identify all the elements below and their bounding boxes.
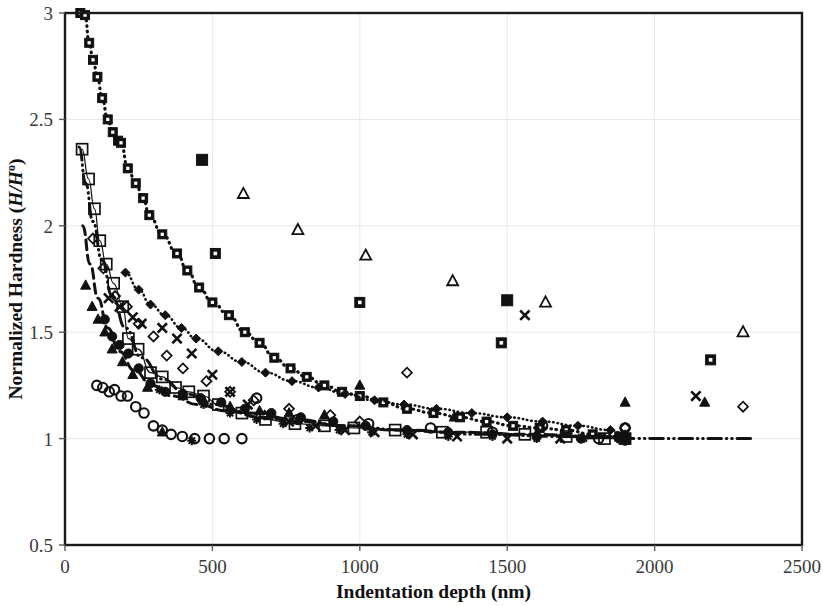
x-tick-label: 1500 xyxy=(488,556,526,577)
marker-square-dot-center xyxy=(175,252,178,255)
marker-square-dot-center xyxy=(111,131,114,134)
x-tick-label: 1000 xyxy=(341,556,379,577)
marker-square-filled xyxy=(502,295,513,306)
y-tick-label: 2.5 xyxy=(29,109,53,130)
marker-square-dot-center xyxy=(101,97,104,100)
marker-square-dot-center xyxy=(214,252,218,256)
marker-square-dot-center xyxy=(198,286,201,289)
x-axis-title: Indentation depth (nm) xyxy=(336,581,531,603)
y-tick-label: 1.5 xyxy=(29,322,53,343)
marker-square-dot-center xyxy=(106,118,109,121)
marker-square-dot-center xyxy=(323,384,326,387)
marker-square-dot-center xyxy=(119,141,122,144)
y-tick-label: 2 xyxy=(44,216,54,237)
chart-figure: 050010001500200025000.511.522.53Indentat… xyxy=(0,0,823,606)
marker-asterisk xyxy=(305,423,314,432)
marker-asterisk xyxy=(187,436,196,445)
x-tick-label: 0 xyxy=(60,556,70,577)
marker-square-dot-center xyxy=(709,358,713,362)
marker-square-dot-center xyxy=(258,341,261,344)
y-axis-title-symbol: H/H xyxy=(5,170,26,208)
marker-square-dot-center xyxy=(458,416,461,419)
marker-square-dot-center xyxy=(511,424,514,427)
marker-square-dot-center xyxy=(142,197,145,200)
marker-square-dot-center xyxy=(227,314,230,317)
x-tick-label: 2000 xyxy=(636,556,674,577)
marker-square-dot-center xyxy=(358,301,362,305)
marker-square-dot-center xyxy=(305,375,308,378)
x-tick-label: 2500 xyxy=(783,556,821,577)
y-axis-title: Normalized Hardness (H/Ho) xyxy=(4,158,27,399)
marker-square-dot-center xyxy=(88,41,91,44)
marker-square-dot-center xyxy=(126,167,129,170)
marker-square-filled xyxy=(197,154,208,165)
marker-square-dot-center xyxy=(243,331,246,334)
scatter-chart: 050010001500200025000.511.522.53Indentat… xyxy=(0,0,823,606)
marker-square-dot-center xyxy=(289,367,292,370)
marker-square-dot-center xyxy=(161,233,164,236)
y-tick-label: 0.5 xyxy=(29,535,53,556)
marker-square-dot-center xyxy=(211,301,214,304)
y-axis-title-suffix: ) xyxy=(5,158,27,165)
y-axis-title-prefix: Normalized Hardness ( xyxy=(5,207,27,400)
marker-square-dot-center xyxy=(134,182,137,185)
y-tick-label: 1 xyxy=(44,429,54,450)
marker-square-dot-center xyxy=(91,58,94,61)
marker-square-dot-center xyxy=(186,269,189,272)
x-tick-label: 500 xyxy=(198,556,227,577)
y-tick-label: 3 xyxy=(44,3,54,24)
marker-square-dot-center xyxy=(273,356,276,359)
marker-square-dot-center xyxy=(485,420,488,423)
marker-square-dot-center xyxy=(96,75,99,78)
marker-square-dot-center xyxy=(500,341,504,345)
marker-square-dot-center xyxy=(148,214,151,217)
